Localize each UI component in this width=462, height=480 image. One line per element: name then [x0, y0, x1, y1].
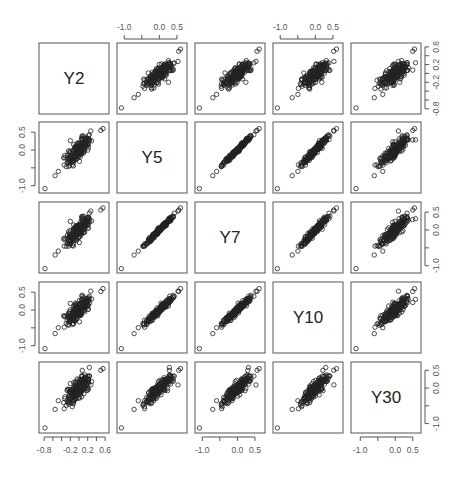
tick-label: 0.5: [171, 22, 183, 32]
variable-label: Y5: [142, 148, 163, 167]
scatter-panel-y30-vs-y5: [117, 362, 187, 433]
scatter-panel-y10-vs-y2: [39, 282, 109, 353]
diagonal-panel-y30: Y30: [351, 362, 421, 433]
scatter-panel-y30-vs-y2: [39, 362, 109, 433]
diagonal-panel-y5: Y5: [117, 122, 187, 193]
diagonal-panel-y10: Y10: [273, 282, 343, 353]
scatter-panel-y5-vs-y30: [351, 122, 421, 193]
bottom-axis-y7: -1.00.00.5: [195, 437, 261, 455]
diagonal-panel-y7: Y7: [195, 202, 265, 273]
variable-label: Y30: [371, 388, 401, 407]
scatter-panel-y10-vs-y30: [351, 282, 421, 353]
tick-label: 0.0: [309, 22, 321, 32]
tick-label: 0.0: [231, 445, 243, 455]
tick-label: -1.0: [431, 258, 441, 273]
scatter-panel-y7-vs-y2: [39, 202, 109, 273]
scatter-panel-y2-vs-y7: [195, 43, 265, 114]
tick-label: -0.8: [431, 101, 441, 116]
tick-label: -0.2: [63, 445, 78, 455]
tick-label: 0.5: [431, 206, 441, 218]
tick-label: 0.5: [17, 126, 27, 138]
tick-label: -1.0: [431, 416, 441, 431]
tick-label: -1.0: [117, 22, 132, 32]
variable-label: Y7: [220, 228, 241, 247]
tick-label: 0.5: [407, 445, 419, 455]
pairs-plot: Y2Y5Y7Y10Y30 -0.8-0.20.20.6-0.8-0.20.20.…: [0, 0, 462, 480]
scatter-panel-y5-vs-y7: [195, 122, 265, 193]
scatter-panel-y2-vs-y30: [351, 43, 421, 114]
tick-label: -1.0: [353, 445, 368, 455]
tick-label: 0.0: [17, 304, 27, 316]
scatter-panel-y30-vs-y7: [195, 362, 265, 433]
right-axis-y7: -1.00.00.5: [425, 206, 441, 273]
variable-label: Y2: [64, 69, 85, 88]
tick-label: 0.0: [431, 382, 441, 394]
tick-label: 0.2: [431, 58, 441, 70]
tick-label: 0.0: [17, 144, 27, 156]
scatter-panel-y5-vs-y2: [39, 122, 109, 193]
tick-label: 0.5: [431, 364, 441, 376]
tick-label: -1.0: [195, 445, 210, 455]
top-axis-y10: -1.00.00.5: [273, 22, 339, 39]
panel-grid: Y2Y5Y7Y10Y30: [39, 43, 421, 433]
tick-label: -1.0: [17, 178, 27, 193]
scatter-panel-y7-vs-y10: [273, 202, 343, 273]
scatter-panel-y7-vs-y5: [117, 202, 187, 273]
scatter-panel-y30-vs-y10: [273, 362, 343, 433]
tick-label: 0.5: [249, 445, 261, 455]
tick-label: 0.0: [431, 224, 441, 236]
scatter-panel-y5-vs-y10: [273, 122, 343, 193]
scatter-panel-y2-vs-y5: [117, 43, 187, 114]
tick-label: 0.0: [389, 445, 401, 455]
bottom-axis-y30: -1.00.00.5: [353, 437, 419, 455]
scatter-panel-y7-vs-y30: [351, 202, 421, 273]
variable-label: Y10: [293, 308, 323, 327]
left-axis-y5: -1.00.00.5: [17, 126, 35, 193]
right-axis-y2: -0.8-0.20.20.6: [425, 41, 441, 116]
tick-label: -0.2: [431, 75, 441, 90]
tick-label: 0.6: [431, 41, 441, 53]
bottom-axis-y2: -0.8-0.20.20.6: [37, 437, 111, 455]
left-axis-y10: -1.00.00.5: [17, 286, 35, 353]
right-axis-y30: -1.00.00.5: [425, 364, 441, 431]
diagonal-panel-y2: Y2: [39, 43, 109, 114]
tick-label: 0.2: [82, 445, 94, 455]
top-axis-y5: -1.00.00.5: [117, 22, 183, 39]
tick-label: 0.5: [17, 286, 27, 298]
tick-label: -1.0: [17, 338, 27, 353]
tick-label: 0.0: [153, 22, 165, 32]
tick-label: -0.8: [37, 445, 52, 455]
tick-label: 0.5: [327, 22, 339, 32]
scatter-panel-y10-vs-y7: [195, 282, 265, 353]
scatter-panel-y10-vs-y5: [117, 282, 187, 353]
tick-label: -1.0: [273, 22, 288, 32]
tick-label: 0.6: [99, 445, 111, 455]
scatter-panel-y2-vs-y10: [273, 43, 343, 114]
